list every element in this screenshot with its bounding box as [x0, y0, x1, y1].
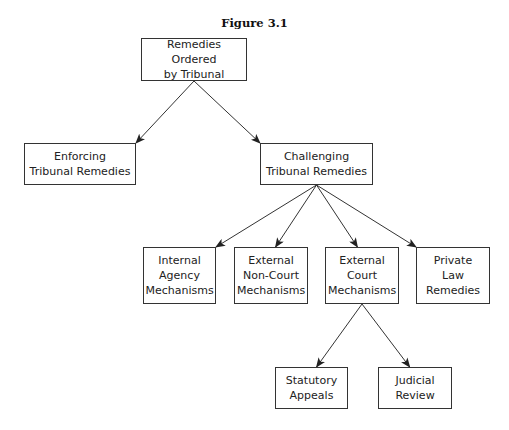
- node-enforcing-tribunal-remedies: Enforcing Tribunal Remedies: [24, 143, 136, 185]
- node-judicial-review: Judicial Review: [378, 367, 452, 409]
- node-statutory-appeals: Statutory Appeals: [275, 367, 348, 409]
- arrow-external_court-to-judicial_review: [362, 304, 410, 367]
- node-private-law-remedies: Private Law Remedies: [416, 247, 490, 304]
- node-label: Enforcing Tribunal Remedies: [30, 149, 131, 179]
- node-label: Challenging Tribunal Remedies: [266, 149, 367, 179]
- arrow-challenging-to-external_court: [317, 185, 358, 247]
- node-label: External Non-Court Mechanisms: [237, 253, 305, 298]
- node-remedies-ordered-by-tribunal: Remedies Ordered by Tribunal: [141, 38, 247, 81]
- node-internal-agency-mechanisms: Internal Agency Mechanisms: [143, 247, 216, 304]
- arrow-challenging-to-internal_agency: [216, 185, 317, 247]
- arrow-root-to-enforcing: [136, 81, 194, 143]
- arrow-external_court-to-statutory_appeals: [317, 304, 362, 367]
- node-label: Judicial Review: [395, 373, 434, 403]
- node-label: Private Law Remedies: [426, 253, 480, 298]
- arrow-challenging-to-private_law: [317, 185, 417, 247]
- arrow-challenging-to-external_non_court: [276, 185, 317, 247]
- node-external-non-court-mechanisms: External Non-Court Mechanisms: [234, 247, 308, 304]
- node-label: Remedies Ordered by Tribunal: [144, 37, 244, 82]
- node-label: Internal Agency Mechanisms: [145, 253, 213, 298]
- node-label: Statutory Appeals: [286, 373, 337, 403]
- node-challenging-tribunal-remedies: Challenging Tribunal Remedies: [260, 143, 373, 185]
- edges-layer: [0, 0, 509, 430]
- node-label: External Court Mechanisms: [328, 253, 396, 298]
- arrow-root-to-challenging: [194, 81, 260, 143]
- node-external-court-mechanisms: External Court Mechanisms: [325, 247, 399, 304]
